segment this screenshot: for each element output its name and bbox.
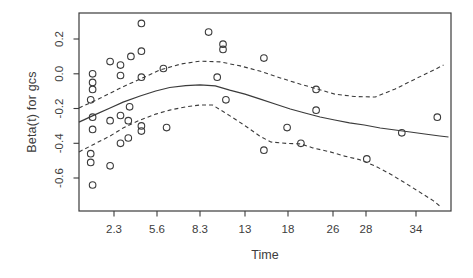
y-tick-label: -0.2 [53,99,65,119]
data-point-circle [107,117,114,124]
data-point-circle [205,29,212,36]
x-tick-label: 5.6 [149,223,165,235]
data-point-circle [163,124,170,131]
data-point-circle [125,135,132,142]
data-point-circle [89,182,96,189]
data-point-circle [107,163,114,170]
data-point-circle [89,79,96,86]
upper-ci-path [79,61,444,108]
x-tick-label: 18 [282,223,295,235]
x-tick-label: 13 [239,223,252,235]
plot-box [79,13,451,211]
data-point-circle [364,156,371,163]
x-axis-title: Time [165,248,365,262]
data-point-circle [117,140,124,147]
data-point-circle [223,97,230,104]
x-tick-label: 2.3 [106,223,122,235]
data-point-circle [126,104,133,111]
data-point-circle [214,74,221,81]
data-point-circle [313,107,320,114]
y-tick-label: 0.0 [53,66,65,82]
data-point-circle [128,53,135,60]
x-tick-label: 28 [360,223,373,235]
y-tick-label: -0.6 [53,168,65,188]
lower-ci-path [79,105,440,206]
data-point-circle [261,55,268,62]
schoenfeld-residual-plot: 2.35.68.313182628340.20.0-0.2-0.4-0.6 Be… [0,0,473,278]
x-tick-label: 26 [327,223,340,235]
data-point-circle [87,159,94,166]
data-point-circle [138,48,145,55]
data-point-circle [89,86,96,93]
data-point-circle [87,150,94,157]
data-point-circle [125,117,132,124]
data-point-circle [117,62,124,69]
data-point-circle [87,97,94,104]
plot-canvas: 2.35.68.313182628340.20.0-0.2-0.4-0.6 [0,0,473,278]
x-tick-label: 34 [410,223,423,235]
data-point-circle [284,124,291,131]
x-tick-label: 8.3 [192,223,208,235]
y-axis-title: Beta(t) for gcs [25,6,41,218]
data-point-circle [89,126,96,133]
data-point-circle [107,58,114,65]
data-point-circle [434,114,441,121]
data-point-circle [261,147,268,154]
data-point-circle [138,20,145,27]
data-point-circle [89,71,96,78]
y-tick-label: -0.4 [53,133,65,153]
data-point-circle [117,112,124,119]
y-tick-label: 0.2 [53,31,65,47]
smooth-line-path [79,85,449,137]
data-point-circle [117,72,124,79]
